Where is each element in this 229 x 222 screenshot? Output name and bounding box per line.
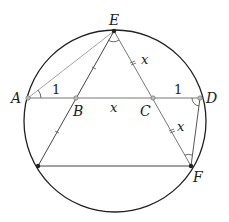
label-AB: 1 <box>52 82 60 97</box>
label-CF: x <box>177 119 185 134</box>
label-BC: x <box>110 100 118 115</box>
point-D <box>198 96 202 100</box>
angle-arc-E <box>108 40 119 42</box>
point-G <box>36 164 40 168</box>
label-D: D <box>205 90 217 106</box>
label-F: F <box>192 169 204 185</box>
point-E <box>112 29 116 33</box>
label-E: E <box>108 12 119 28</box>
geometry-diagram: E A B C D F 1 x 1 x x <box>0 0 229 222</box>
point-A <box>26 96 30 100</box>
angle-arc-A <box>38 90 41 98</box>
point-C <box>151 96 155 100</box>
point-F <box>189 164 193 168</box>
angle-arc-F <box>185 154 192 155</box>
point-B <box>74 96 78 100</box>
label-EC: x <box>141 52 149 67</box>
label-C: C <box>140 103 151 119</box>
label-CD: 1 <box>174 82 182 97</box>
label-A: A <box>9 90 21 106</box>
label-B: B <box>72 103 83 119</box>
